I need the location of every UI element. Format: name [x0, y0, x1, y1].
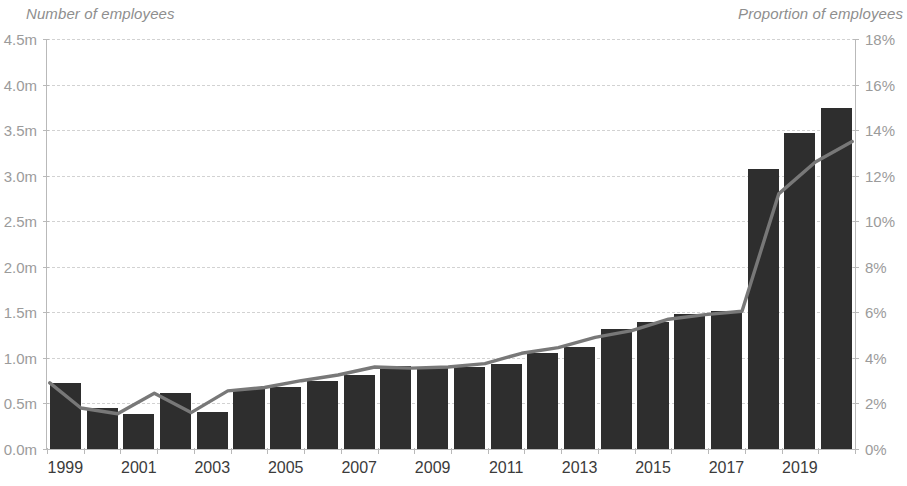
- x-axis-tick: [84, 448, 85, 454]
- bar: [270, 387, 301, 449]
- x-axis-tick: [524, 448, 525, 454]
- y-axis-right-tick: [853, 403, 859, 404]
- y-axis-left-tick-label: 3.0m: [4, 169, 37, 184]
- bar: [380, 366, 411, 449]
- x-axis-tick-label: 2015: [635, 460, 671, 476]
- bar: [821, 108, 852, 449]
- x-axis-tick: [120, 448, 121, 454]
- y-axis-right-tick: [853, 449, 859, 450]
- y-axis-right-tick-label: 10%: [865, 214, 895, 229]
- gridline: [47, 267, 855, 268]
- bar: [87, 408, 118, 449]
- bar: [637, 322, 668, 449]
- x-axis-tick-label: 2003: [194, 460, 230, 476]
- y-axis-left-tick-label: 0.5m: [4, 396, 37, 411]
- y-axis-left-tick-label: 0.0m: [4, 442, 37, 457]
- y-axis-right-tick: [853, 221, 859, 222]
- x-axis-tick: [157, 448, 158, 454]
- x-axis-tick: [304, 448, 305, 454]
- gridline: [47, 130, 855, 131]
- y-axis-left-tick: [43, 267, 49, 268]
- y-axis-left-tick: [43, 403, 49, 404]
- x-axis-tick: [451, 448, 452, 454]
- plot-area: 0.0m0.5m1.0m1.5m2.0m2.5m3.0m3.5m4.0m4.5m…: [47, 39, 855, 449]
- gridline: [47, 85, 855, 86]
- chart-container: Number of employees Proportion of employ…: [0, 0, 907, 486]
- bar: [454, 367, 485, 449]
- y-axis-right-tick: [853, 176, 859, 177]
- x-axis-tick: [818, 448, 819, 454]
- x-axis-tick-label: 2019: [782, 460, 818, 476]
- x-axis-tick-label: 2007: [341, 460, 377, 476]
- y-axis-right-tick-label: 16%: [865, 78, 895, 93]
- y-axis-left-tick: [43, 85, 49, 86]
- x-axis-tick: [561, 448, 562, 454]
- x-axis-tick: [488, 448, 489, 454]
- bar: [601, 329, 632, 449]
- bar: [417, 367, 448, 449]
- y-axis-left-spine: [46, 39, 47, 449]
- x-axis-tick: [231, 448, 232, 454]
- bar: [564, 347, 595, 449]
- gridline: [47, 176, 855, 177]
- x-axis-tick: [378, 448, 379, 454]
- y-axis-right-spine: [855, 39, 856, 449]
- x-axis-tick-label: 2005: [268, 460, 304, 476]
- y-axis-left-tick: [43, 221, 49, 222]
- bar: [50, 383, 81, 449]
- y-axis-right-tick-label: 2%: [865, 396, 887, 411]
- y-axis-right-tick-label: 12%: [865, 169, 895, 184]
- x-axis-tick-label: 1999: [48, 460, 84, 476]
- y-axis-right-tick-label: 6%: [865, 305, 887, 320]
- y-axis-left-tick-label: 1.0m: [4, 351, 37, 366]
- bar: [674, 314, 705, 449]
- x-axis-tick: [708, 448, 709, 454]
- y-axis-right-tick: [853, 85, 859, 86]
- x-axis-tick: [598, 448, 599, 454]
- y-axis-right-tick: [853, 358, 859, 359]
- x-axis-tick: [745, 448, 746, 454]
- y-axis-title-left: Number of employees: [26, 5, 175, 22]
- x-axis-tick: [194, 448, 195, 454]
- y-axis-right-tick-label: 4%: [865, 351, 887, 366]
- x-axis-tick: [782, 448, 783, 454]
- y-axis-right-tick-label: 8%: [865, 260, 887, 275]
- x-axis-tick: [635, 448, 636, 454]
- x-axis-tick-label: 2011: [489, 460, 523, 476]
- y-axis-left-tick: [43, 449, 49, 450]
- x-axis-tick: [671, 448, 672, 454]
- bar: [491, 364, 522, 449]
- bar: [711, 311, 742, 449]
- bar: [784, 133, 815, 449]
- x-axis-tick: [47, 448, 48, 454]
- bar: [123, 414, 154, 449]
- gridline: [47, 39, 855, 40]
- x-axis-tick-label: 2017: [709, 460, 745, 476]
- bar: [197, 412, 228, 449]
- bar: [160, 393, 191, 449]
- y-axis-left-tick-label: 1.5m: [4, 305, 37, 320]
- bar: [233, 389, 264, 449]
- x-axis-tick-label: 2013: [562, 460, 598, 476]
- bar: [527, 353, 558, 449]
- x-axis-tick: [341, 448, 342, 454]
- y-axis-left-tick: [43, 358, 49, 359]
- bar: [748, 169, 779, 449]
- y-axis-left-tick: [43, 312, 49, 313]
- bar: [344, 375, 375, 449]
- y-axis-right-tick-label: 14%: [865, 123, 895, 138]
- y-axis-title-right: Proportion of employees: [738, 5, 903, 22]
- y-axis-left-tick-label: 2.5m: [4, 214, 37, 229]
- bar: [307, 381, 338, 449]
- x-axis-tick: [267, 448, 268, 454]
- x-axis-tick-label: 2001: [121, 460, 157, 476]
- y-axis-left-tick: [43, 176, 49, 177]
- x-axis-tick: [414, 448, 415, 454]
- y-axis-left-tick: [43, 39, 49, 40]
- y-axis-left-tick-label: 4.0m: [4, 78, 37, 93]
- y-axis-right-tick: [853, 39, 859, 40]
- y-axis-left-tick-label: 2.0m: [4, 260, 37, 275]
- y-axis-left-tick-label: 4.5m: [4, 32, 37, 47]
- y-axis-left-tick-label: 3.5m: [4, 123, 37, 138]
- y-axis-right-tick-label: 0%: [865, 442, 887, 457]
